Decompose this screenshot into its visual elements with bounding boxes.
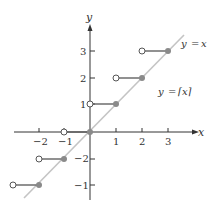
y-tick-label: 2 [80,73,86,84]
y-tick-label: 1 [80,99,86,110]
y-ticks [90,51,95,185]
y-tick-label: −2 [74,153,89,164]
y-tick-label: −1 [74,180,89,191]
identity-line-label: y = x [180,38,207,49]
identity-line [24,35,184,198]
x-tick-labels: −2 −1 1 2 3 [33,136,171,147]
svg-text:=: = [168,86,176,97]
x-tick-label: 1 [113,136,119,147]
x-tick-label: 2 [139,136,145,147]
svg-text:x: x [201,38,207,49]
y-axis-label: y [85,11,93,24]
x-axis-label: x [198,126,205,139]
y-tick-labels: 3 2 1 −2 −1 [74,46,89,191]
ceiling-function-graph: −2 −1 1 2 3 3 2 1 −2 −1 y x [0,0,218,209]
x-ticks [39,128,168,132]
svg-text:=: = [191,38,199,49]
ceiling-label: y = ⌈x⌉ [157,86,192,97]
x-tick-label: −1 [58,136,73,147]
x-tick-label: 3 [165,136,171,147]
y-axis-arrow-icon [88,24,93,31]
svg-text:⌈x⌉: ⌈x⌉ [178,86,192,97]
svg-text:y: y [157,86,164,97]
x-tick-label: −2 [33,136,48,147]
y-tick-label: 3 [80,46,86,57]
open-endpoints [10,48,145,188]
svg-text:y: y [180,38,187,49]
